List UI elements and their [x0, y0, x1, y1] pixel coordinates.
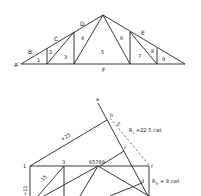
panel-3: 3	[64, 54, 67, 60]
panel-7: 7	[138, 53, 141, 59]
panel-2: 2	[49, 49, 52, 55]
web-right-1	[103, 15, 130, 64]
point-a: a	[96, 96, 99, 102]
member-value-vertical-left: +11	[22, 185, 28, 196]
label-D: D	[80, 20, 85, 27]
label-F: F	[102, 66, 106, 73]
panel-1: 1	[37, 57, 40, 63]
point-c: c	[124, 144, 127, 150]
member-value-top-left: +25	[60, 131, 72, 141]
left-rafter	[21, 15, 103, 64]
label-C: C	[54, 35, 58, 42]
reaction-right-value: = 9 cwt	[160, 178, 179, 184]
panel-5: 5	[101, 49, 104, 55]
diag-centre-left-1	[44, 166, 98, 196]
point-centre: 65789	[89, 159, 105, 165]
reaction-left: R L =22·5 cwt	[129, 127, 162, 135]
tick-label: 5	[115, 121, 122, 127]
web-left-2	[47, 32, 74, 64]
reaction-right: R R = 9 cwt	[152, 178, 179, 186]
point-3: 3	[62, 159, 65, 165]
label-E: E	[141, 29, 145, 36]
reaction-left-sub: L	[133, 131, 135, 135]
reaction-right-sub: R	[156, 182, 159, 186]
point-1: 1	[23, 163, 26, 169]
panel-8: 8	[151, 48, 154, 54]
panel-4: 4	[81, 35, 84, 41]
label-A: A	[14, 61, 19, 68]
panel-9: 9	[162, 56, 165, 62]
right-rafter	[103, 15, 185, 64]
web-left-4	[74, 15, 103, 64]
truss-diagram-canvas: A B C D E F 1 2 3 4 5 6 7 8 9	[0, 0, 201, 196]
point-d: d	[141, 178, 144, 184]
reaction-left-value: =22·5 cwt	[136, 127, 162, 133]
point-f: f	[151, 163, 153, 169]
roof-truss: A B C D E F 1 2 3 4 5 6 7 8 9	[14, 15, 185, 73]
force-diagram: a b c d f 1 3 65789 +25 -15 +11 5 R L =2…	[22, 96, 179, 196]
member-value-diag-left: -15	[38, 174, 48, 184]
panel-6: 6	[120, 35, 123, 41]
point-b: b	[110, 112, 113, 118]
label-B: B	[28, 48, 32, 55]
